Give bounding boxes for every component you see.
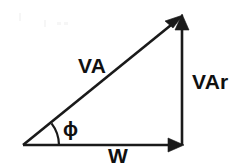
phase-angle-arc [52, 123, 60, 145]
real-power-label: W [108, 144, 128, 166]
phase-angle-label: ϕ [63, 118, 78, 140]
apparent-power-vector-line [23, 21, 176, 145]
reactive-power-label: VAr [192, 70, 228, 93]
power-triangle-diagram: VA VAr W ϕ [0, 0, 237, 166]
apparent-power-label: VA [78, 54, 106, 77]
power-triangle-svg: VA VAr W ϕ [0, 0, 237, 166]
